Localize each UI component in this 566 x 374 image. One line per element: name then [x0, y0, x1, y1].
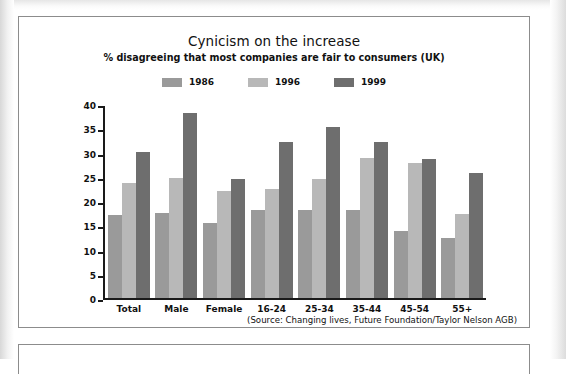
y-tick-label-35: 35 [83, 125, 96, 135]
chart-subtitle: % disagreeing that most companies are fa… [19, 52, 529, 63]
bar-45-54-1986 [394, 231, 408, 298]
bar-Female-1986 [203, 223, 217, 298]
legend-swatch-1999 [334, 78, 354, 87]
bar-groups: TotalMaleFemale16-2425-3435-4445-5455+ [105, 106, 486, 298]
y-tick-label-0: 0 [90, 295, 96, 305]
y-tick-mark-20 [98, 203, 103, 205]
y-tick-label-10: 10 [83, 247, 96, 257]
bar-35-44-1996 [360, 158, 374, 298]
bar-Total-1999 [136, 152, 150, 298]
x-axis-line [103, 298, 486, 300]
y-tick-mark-15 [98, 227, 103, 229]
bar-35-44-1986 [346, 210, 360, 298]
bar-group-55+: 55+ [438, 106, 486, 298]
bar-25-34-1986 [298, 210, 312, 298]
chart-figure-box: Cynicism on the increase % disagreeing t… [18, 16, 530, 328]
legend-label-1986: 1986 [189, 77, 214, 87]
page-edge-shading-top [0, 0, 566, 10]
legend-item-1986: 1986 [162, 77, 214, 87]
plot-area: 0510152025303540 TotalMaleFemale16-2425-… [103, 106, 486, 300]
bar-25-34-1996 [312, 179, 326, 298]
bar-Female-1999 [231, 179, 245, 298]
x-axis-label-35-44: 35-44 [343, 304, 391, 314]
y-tick-mark-35 [98, 130, 103, 132]
legend-item-1999: 1999 [334, 77, 386, 87]
legend-swatch-1996 [248, 78, 268, 87]
y-tick-mark-5 [98, 276, 103, 278]
legend-item-1996: 1996 [248, 77, 300, 87]
legend-label-1996: 1996 [275, 77, 300, 87]
bar-45-54-1996 [408, 163, 422, 298]
bar-group-Total: Total [105, 106, 153, 298]
bar-35-44-1999 [374, 142, 388, 298]
x-axis-label-Male: Male [153, 304, 201, 314]
chart-source-note: (Source: Changing lives, Future Foundati… [247, 315, 517, 325]
y-tick-mark-0 [98, 300, 103, 302]
legend-label-1999: 1999 [361, 77, 386, 87]
y-tick-label-20: 20 [83, 198, 96, 208]
bar-25-34-1999 [326, 127, 340, 298]
bar-Female-1996 [217, 191, 231, 298]
bar-Male-1999 [183, 113, 197, 298]
y-tick-mark-10 [98, 252, 103, 254]
y-tick-label-30: 30 [83, 150, 96, 160]
x-axis-label-45-54: 45-54 [391, 304, 439, 314]
bar-55+-1996 [455, 214, 469, 298]
bar-group-Male: Male [153, 106, 201, 298]
x-axis-label-Female: Female [200, 304, 248, 314]
y-tick-mark-25 [98, 179, 103, 181]
y-tick-label-5: 5 [90, 271, 96, 281]
bar-group-45-54: 45-54 [391, 106, 439, 298]
bar-group-16-24: 16-24 [248, 106, 296, 298]
page-edge-shading-right [550, 0, 566, 359]
bar-16-24-1996 [265, 189, 279, 298]
y-tick-label-25: 25 [83, 174, 96, 184]
bar-Male-1986 [155, 213, 169, 298]
bar-group-35-44: 35-44 [343, 106, 391, 298]
bar-55+-1986 [441, 238, 455, 298]
legend-swatch-1986 [162, 78, 182, 87]
bar-Total-1996 [122, 183, 136, 298]
bar-16-24-1986 [251, 210, 265, 298]
chart-legend: 198619961999 [19, 77, 529, 87]
x-axis-label-55+: 55+ [438, 304, 486, 314]
page-edge-shading-left [0, 0, 14, 359]
bar-16-24-1999 [279, 142, 293, 298]
next-figure-box [18, 344, 530, 374]
x-axis-label-25-34: 25-34 [296, 304, 344, 314]
y-tick-mark-40 [98, 106, 103, 108]
chart-title: Cynicism on the increase [19, 33, 529, 49]
x-axis-label-16-24: 16-24 [248, 304, 296, 314]
bar-45-54-1999 [422, 159, 436, 298]
bar-group-25-34: 25-34 [296, 106, 344, 298]
y-tick-mark-30 [98, 155, 103, 157]
bar-Total-1986 [108, 215, 122, 298]
bar-55+-1999 [469, 173, 483, 298]
x-axis-label-Total: Total [105, 304, 153, 314]
y-tick-label-40: 40 [83, 101, 96, 111]
y-tick-label-15: 15 [83, 222, 96, 232]
bar-Male-1996 [169, 178, 183, 298]
bar-group-Female: Female [200, 106, 248, 298]
